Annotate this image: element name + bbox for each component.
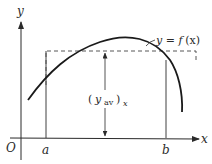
interval-right-label: b	[162, 143, 170, 157]
interval-left-label: a	[42, 143, 49, 157]
curve-label: y = f (x)	[155, 34, 200, 47]
average-label-symbol: y	[94, 93, 102, 106]
origin-label: O	[6, 141, 16, 155]
average-value-diagram: y x O y = f (x) ( y av ) x a b	[0, 0, 212, 164]
x-axis-label: x	[201, 132, 208, 146]
average-label-outer-subscript: x	[123, 99, 128, 108]
curve-label-lhs: y =	[155, 34, 178, 47]
average-label: ( y av ) x	[88, 93, 128, 108]
x-axis	[10, 138, 199, 139]
average-label-close-paren: )	[116, 93, 120, 106]
average-label-subscript: av	[104, 98, 114, 107]
curve-label-arg: (x)	[185, 34, 200, 47]
average-label-open-paren: (	[88, 93, 92, 106]
curve-label-fn: f	[177, 34, 184, 47]
y-axis-label: y	[16, 4, 24, 18]
